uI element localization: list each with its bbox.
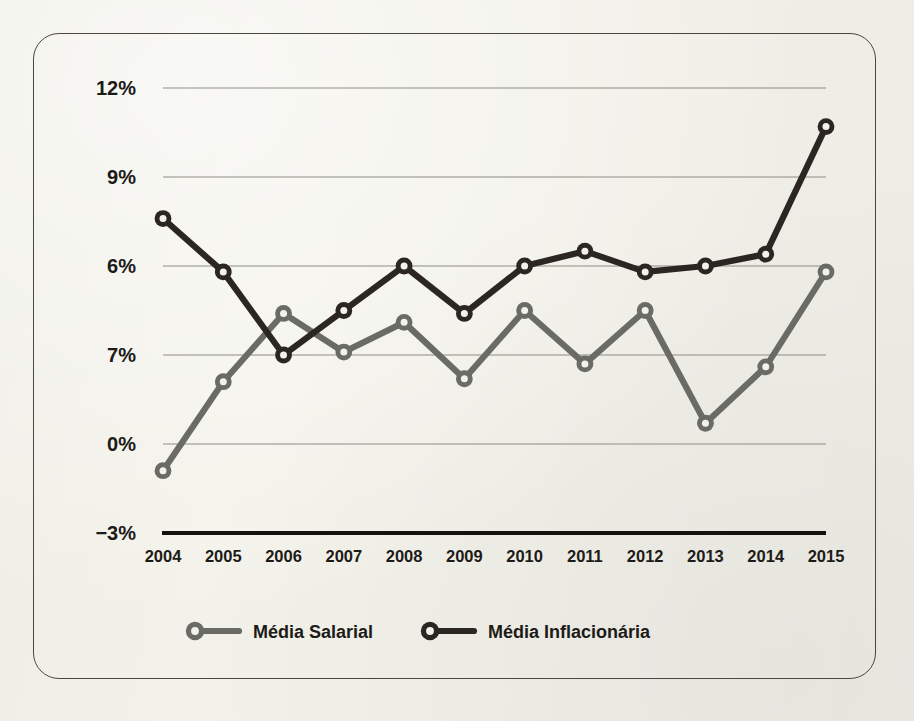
- series-line: [163, 272, 826, 471]
- x-axis-tick-label: 2015: [808, 547, 845, 565]
- x-axis-tick-label: 2006: [265, 547, 302, 565]
- line-chart: 12%9%6%7%0%−3% 2004200520062007200820092…: [0, 0, 914, 721]
- data-point-marker-hole: [762, 251, 769, 258]
- data-point-marker-hole: [642, 268, 649, 275]
- x-axis-tick-label: 2005: [205, 547, 242, 565]
- legend-item[interactable]: Média Inflacionária: [421, 622, 651, 642]
- x-axis-labels: 2004200520062007200820092010201120122013…: [145, 547, 845, 565]
- data-point-marker-hole: [280, 310, 287, 317]
- data-point-marker-hole: [401, 319, 408, 326]
- data-point-marker-hole: [642, 307, 649, 314]
- x-axis-tick-label: 2013: [687, 547, 724, 565]
- series-media-salarial: [155, 264, 835, 480]
- legend-ring-marker-hole: [191, 627, 199, 635]
- legend-item[interactable]: Média Salarial: [186, 622, 373, 642]
- y-axis-labels: 12%9%6%7%0%−3%: [95, 77, 136, 544]
- data-point-marker-hole: [340, 349, 347, 356]
- x-axis-tick-label: 2014: [747, 547, 785, 565]
- x-axis-tick-label: 2012: [627, 547, 664, 565]
- y-axis-tick-label: 7%: [107, 344, 136, 366]
- data-point-marker-hole: [160, 467, 167, 474]
- data-point-marker-hole: [823, 268, 830, 275]
- y-axis-tick-label: 0%: [107, 433, 136, 455]
- x-axis-tick-label: 2009: [446, 547, 483, 565]
- x-axis-tick-label: 2004: [145, 547, 183, 565]
- data-point-marker-hole: [581, 248, 588, 255]
- data-point-marker-hole: [762, 363, 769, 370]
- y-axis-tick-label: 12%: [96, 77, 136, 99]
- data-point-marker-hole: [220, 268, 227, 275]
- series-media-inflacionaria: [155, 118, 835, 363]
- data-point-marker-hole: [521, 263, 528, 270]
- data-point-marker-hole: [340, 307, 347, 314]
- data-point-marker-hole: [220, 378, 227, 385]
- data-point-marker-hole: [823, 123, 830, 130]
- y-axis-tick-label: 6%: [107, 255, 136, 277]
- data-point-marker-hole: [280, 352, 287, 359]
- data-point-marker-hole: [461, 310, 468, 317]
- data-series-group: [155, 118, 835, 479]
- series-line: [163, 127, 826, 355]
- data-point-marker-hole: [581, 360, 588, 367]
- x-axis-tick-label: 2007: [325, 547, 362, 565]
- x-axis-tick-label: 2010: [506, 547, 543, 565]
- data-point-marker-hole: [401, 263, 408, 270]
- data-point-marker-hole: [702, 263, 709, 270]
- data-point-marker-hole: [160, 215, 167, 222]
- data-point-marker-hole: [521, 307, 528, 314]
- gridline-group: [163, 88, 826, 444]
- legend-label: Média Salarial: [253, 622, 373, 642]
- legend-label: Média Inflacionária: [488, 622, 651, 642]
- x-axis-tick-label: 2011: [567, 547, 603, 565]
- legend-ring-marker-hole: [426, 627, 434, 635]
- x-axis-tick-label: 2008: [386, 547, 423, 565]
- y-axis-tick-label: 9%: [107, 166, 136, 188]
- data-point-marker-hole: [461, 375, 468, 382]
- chart-legend: Média SalarialMédia Inflacionária: [186, 622, 651, 642]
- y-axis-tick-label: −3%: [95, 522, 136, 544]
- data-point-marker-hole: [702, 420, 709, 427]
- chart-page: 12%9%6%7%0%−3% 2004200520062007200820092…: [0, 0, 914, 721]
